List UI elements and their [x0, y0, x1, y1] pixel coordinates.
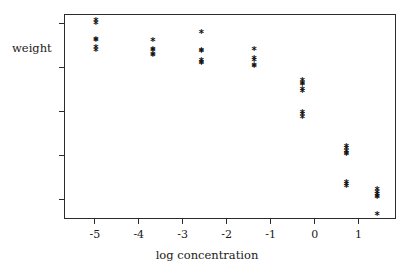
x-tick-mark — [358, 219, 359, 224]
x-tick-label: -4 — [133, 228, 144, 241]
x-axis-title: log concentration — [0, 248, 414, 262]
x-tick-label: 1 — [355, 228, 362, 241]
x-tick-mark — [138, 219, 139, 224]
x-tick-mark — [270, 219, 271, 224]
x-tick-label: -1 — [265, 228, 276, 241]
x-tick-mark — [94, 219, 95, 224]
x-tick-label: -3 — [177, 228, 188, 241]
x-tick-mark — [314, 219, 315, 224]
scatter-chart: weight 2004006008001000 ****************… — [0, 0, 414, 275]
x-tick-mark — [226, 219, 227, 224]
x-tick-label: -2 — [221, 228, 232, 241]
x-tick-label: -5 — [89, 228, 100, 241]
x-tick-label: 0 — [311, 228, 318, 241]
x-tick-mark — [182, 219, 183, 224]
x-axis-tick-labels: -5-4-3-2-101 — [0, 0, 414, 275]
